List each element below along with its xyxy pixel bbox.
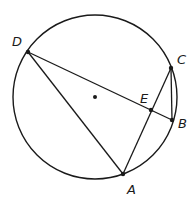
point-C — [169, 66, 173, 70]
point-D — [26, 50, 30, 54]
label-A: A — [126, 182, 136, 197]
label-D: D — [12, 34, 22, 49]
center-point — [93, 95, 97, 99]
point-B — [170, 118, 174, 122]
segment-CB — [171, 68, 172, 120]
segment-DA — [28, 52, 123, 174]
point-E — [149, 108, 153, 112]
circle-diagram: D C E B A — [0, 0, 195, 201]
label-E: E — [140, 91, 149, 106]
point-A — [121, 172, 125, 176]
label-C: C — [177, 52, 187, 67]
label-B: B — [178, 116, 187, 131]
segment-AC — [123, 68, 171, 174]
